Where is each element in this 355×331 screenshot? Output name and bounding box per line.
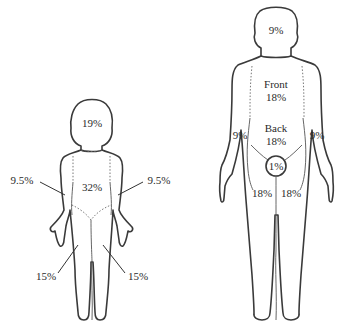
adult-right-leg-label: 18% xyxy=(250,187,274,199)
adult-trunk-back-value: 18% xyxy=(260,135,292,147)
adult-hip-line-right xyxy=(251,145,268,160)
adult-trunk-front-value: 18% xyxy=(260,91,292,103)
child-head-label: 19% xyxy=(80,117,104,129)
child-inner-arm-line-left xyxy=(110,182,111,215)
child-left-leg-leader xyxy=(103,245,125,273)
adult-inner-arm-line-left xyxy=(300,118,306,190)
adult-trunk-back-title: Back xyxy=(260,122,292,134)
child-hip-division xyxy=(72,205,111,220)
child-right-leg-label: 15% xyxy=(34,270,58,282)
adult-left-leg-label: 18% xyxy=(279,187,303,199)
adult-hip-line-left xyxy=(285,145,302,160)
adult-right-arm-label: 9% xyxy=(230,129,250,141)
adult-shoulder-division-left xyxy=(302,66,304,118)
child-inner-arm-line-right xyxy=(72,182,73,215)
adult-trunk-front-title: Front xyxy=(260,78,292,90)
adult-genital-label: 1% xyxy=(266,160,286,172)
adult-head-label: 9% xyxy=(265,24,287,36)
adult-shoulder-division-right xyxy=(250,66,252,118)
adult-leg-divider xyxy=(276,176,277,320)
child-left-arm-label: 9.5% xyxy=(143,174,175,186)
child-trunk-label: 32% xyxy=(78,181,106,193)
child-right-arm-label: 9.5% xyxy=(6,174,38,186)
adult-left-arm-label: 9% xyxy=(307,129,327,141)
child-figure xyxy=(40,100,143,321)
child-left-leg-label: 15% xyxy=(126,270,150,282)
